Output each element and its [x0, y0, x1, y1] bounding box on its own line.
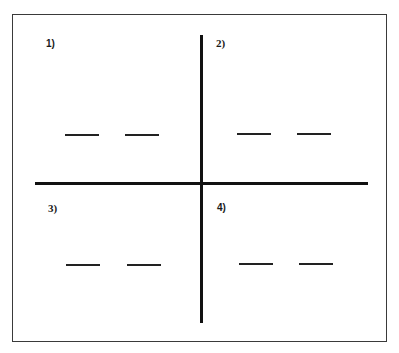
quadrant-4-blank-1[interactable]: [239, 263, 273, 265]
quadrant-2-blank-1[interactable]: [237, 133, 271, 135]
quadrant-4-label: 4): [217, 203, 226, 213]
quadrant-1-blank-1[interactable]: [65, 134, 99, 136]
quadrant-4-blank-2[interactable]: [299, 263, 333, 265]
quadrant-3-blank-1[interactable]: [66, 264, 100, 266]
quadrant-1-blank-2[interactable]: [125, 134, 159, 136]
quadrant-3-blank-2[interactable]: [127, 264, 161, 266]
quadrant-1-label: 1): [46, 39, 55, 49]
vertical-divider-axis: [200, 35, 203, 323]
quadrant-2-blank-2[interactable]: [297, 133, 331, 135]
quadrant-3-label: 3): [48, 203, 57, 214]
quadrant-2-label: 2): [216, 38, 225, 49]
